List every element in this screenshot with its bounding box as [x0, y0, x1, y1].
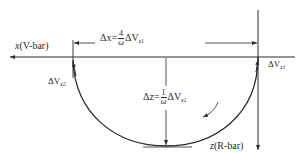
- dz-sub: z1: [181, 97, 186, 103]
- z-axis-name: (R-bar): [214, 140, 243, 151]
- diagram-canvas: [0, 0, 303, 153]
- dx-delta: ΔV: [125, 32, 139, 43]
- dz-denominator: ω: [161, 98, 167, 106]
- motion-direction-arrow: [203, 102, 218, 117]
- dz-formula: Δz=1ωΔVz1: [143, 89, 187, 106]
- dx-sub: z1: [139, 38, 144, 44]
- dx-fraction: 4ω: [118, 30, 124, 47]
- dv-z2-label: ΔVz2: [48, 77, 66, 87]
- dz-delta: ΔV: [168, 91, 182, 102]
- dz-fraction: 1ω: [161, 89, 167, 106]
- dv-z2-delta: ΔV: [48, 76, 60, 86]
- dx-denominator: ω: [118, 39, 124, 47]
- x-axis-label: x(V-bar): [15, 41, 49, 51]
- z-axis-label: z(R-bar): [210, 141, 243, 151]
- dz-lhs: Δz=: [143, 91, 160, 102]
- dx-lhs: Δx=: [100, 32, 117, 43]
- dv-z1-sub: z1: [280, 64, 285, 70]
- dv-z1-delta: ΔV: [268, 59, 280, 69]
- dx-formula: Δx=4ωΔVz1: [100, 30, 144, 47]
- x-axis-name: (V-bar): [19, 40, 48, 51]
- dv-z1-label: ΔVz1: [268, 60, 286, 70]
- dv-z2-sub: z2: [60, 81, 65, 87]
